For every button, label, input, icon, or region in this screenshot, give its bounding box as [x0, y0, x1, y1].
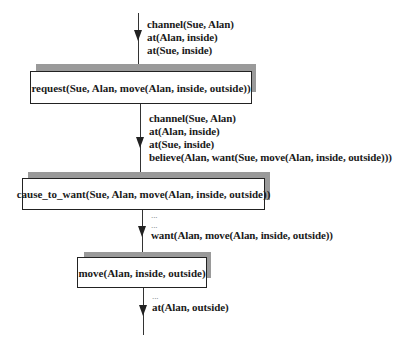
state-conditions-3: ... ... want(Alan, move(Alan, inside, ou… [151, 210, 333, 242]
arrow-down-icon [136, 137, 144, 148]
condition: believe(Alan, want(Sue, move(Alan, insid… [149, 151, 392, 164]
condition: channel(Sue, Alan) [147, 18, 234, 31]
action-box-request: request(Sue, Alan, move(Alan, inside, ou… [30, 71, 252, 104]
condition: ... [151, 220, 333, 229]
condition: at(Alan, outside) [152, 301, 229, 314]
condition: at(Alan, inside) [147, 31, 234, 44]
state-conditions-1: channel(Sue, Alan) at(Alan, inside) at(S… [147, 18, 234, 57]
condition: ... [152, 291, 229, 301]
state-conditions-2: channel(Sue, Alan) at(Alan, inside) at(S… [149, 112, 392, 164]
state-conditions-4: ... at(Alan, outside) [152, 291, 229, 314]
arrow-down-icon [134, 30, 142, 41]
condition: at(Sue, inside) [149, 138, 392, 151]
action-box-cause-to-want: cause_to_want(Sue, Alan, move(Alan, insi… [22, 178, 265, 210]
action-box-move: move(Alan, inside, outside) [77, 257, 207, 288]
condition: at(Sue, inside) [147, 44, 234, 57]
condition: want(Alan, move(Alan, inside, outside)) [151, 229, 333, 242]
condition: channel(Sue, Alan) [149, 112, 392, 125]
condition: at(Alan, inside) [149, 125, 392, 138]
arrow-down-icon [138, 226, 146, 237]
arrow-down-icon [139, 305, 147, 316]
condition: ... [151, 210, 333, 220]
